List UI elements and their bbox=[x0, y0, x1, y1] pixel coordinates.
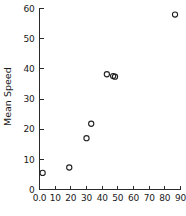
data-point bbox=[67, 165, 72, 170]
y-tick-label: 60 bbox=[23, 4, 35, 14]
data-point bbox=[40, 170, 45, 175]
data-points bbox=[40, 12, 178, 176]
x-tick-label: 60 bbox=[128, 193, 140, 203]
x-tick-label: 80 bbox=[159, 193, 171, 203]
x-tick-label: 20 bbox=[65, 193, 77, 203]
scatter-chart: Mean Speed 0102030405060 0.0102030405060… bbox=[0, 0, 186, 216]
y-tick-label: 10 bbox=[23, 155, 35, 165]
data-point bbox=[172, 12, 177, 17]
x-axis-tick-labels: 0.0102030405060708090 bbox=[33, 193, 186, 203]
x-tick-label: 30 bbox=[81, 193, 93, 203]
x-tick-label: 10 bbox=[50, 193, 62, 203]
x-tick-label: 50 bbox=[112, 193, 124, 203]
y-axis-title: Mean Speed bbox=[2, 67, 13, 126]
x-tick-label: 70 bbox=[144, 193, 156, 203]
y-tick-label: 50 bbox=[23, 34, 35, 44]
y-tick-label: 40 bbox=[23, 64, 35, 74]
x-tick-label: 0.0 bbox=[33, 193, 47, 203]
y-axis-ticks bbox=[40, 9, 44, 190]
y-axis-tick-labels: 0102030405060 bbox=[23, 4, 35, 195]
x-axis-ticks bbox=[40, 186, 181, 190]
y-tick-label: 30 bbox=[23, 94, 35, 104]
data-point bbox=[84, 136, 89, 141]
data-point bbox=[89, 121, 94, 126]
plot-area: Mean Speed 0102030405060 0.0102030405060… bbox=[0, 0, 186, 216]
y-tick-label: 20 bbox=[23, 124, 35, 134]
data-point bbox=[104, 72, 109, 77]
x-tick-label: 90 bbox=[175, 193, 186, 203]
x-tick-label: 40 bbox=[97, 193, 109, 203]
